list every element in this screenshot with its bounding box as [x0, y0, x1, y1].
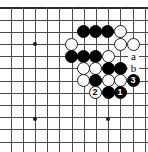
go-diagram-root: ab123: [0, 0, 148, 152]
grid-line-vertical: [47, 7, 48, 152]
move-marker-3: 3: [127, 74, 140, 87]
black-stone: [114, 62, 127, 75]
hoshi-point: [33, 117, 37, 121]
black-stone: [102, 62, 115, 75]
grid-line-vertical: [35, 7, 36, 152]
grid-line-vertical: [145, 7, 146, 152]
grid-line-vertical: [72, 7, 73, 152]
white-stone: [114, 38, 127, 51]
white-stone: [102, 74, 115, 87]
black-stone: [65, 50, 78, 63]
white-stone: [114, 74, 127, 87]
grid-line-vertical: [59, 7, 60, 152]
move-marker-2: 2: [89, 86, 102, 99]
black-stone: [102, 86, 115, 99]
grid-line-vertical: [23, 7, 24, 152]
black-stone: [77, 50, 90, 63]
go-board: ab123: [0, 0, 148, 152]
black-stone: [89, 25, 102, 38]
white-stone: [89, 62, 102, 75]
white-stone: [77, 62, 90, 75]
white-stone: [114, 25, 127, 38]
black-stone: [77, 25, 90, 38]
black-stone: [101, 25, 114, 38]
white-stone: [65, 38, 78, 51]
hoshi-point: [33, 42, 37, 46]
white-stone: [102, 50, 115, 63]
white-stone: [77, 74, 90, 87]
hoshi-point: [106, 117, 110, 121]
black-stone: [89, 74, 102, 87]
grid-line-vertical: [11, 7, 12, 152]
black-stone: [89, 50, 102, 63]
move-marker-1: 1: [114, 86, 127, 99]
white-stone: [127, 38, 140, 51]
